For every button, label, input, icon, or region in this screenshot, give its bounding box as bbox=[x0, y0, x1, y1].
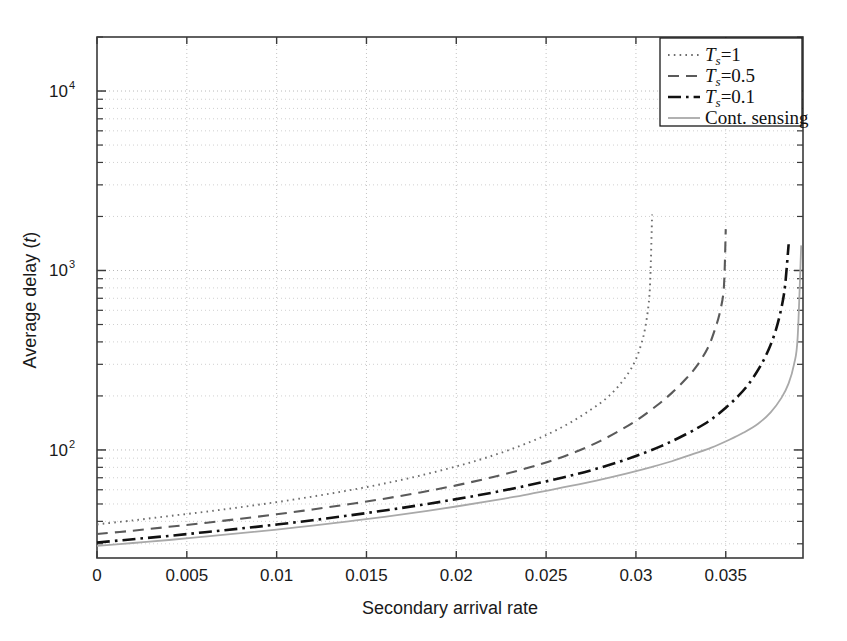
svg-text:3: 3 bbox=[69, 258, 75, 270]
chart-canvas: 00.0050.010.0150.020.0250.030.035 102103… bbox=[0, 0, 847, 641]
svg-text:10: 10 bbox=[49, 82, 68, 101]
x-tick-label: 0.025 bbox=[525, 566, 568, 585]
y-axis-title-text: Average delay (t) bbox=[20, 232, 40, 369]
x-axis-title: Secondary arrival rate bbox=[362, 598, 538, 618]
y-tick-labels: 102103104 bbox=[49, 79, 75, 460]
svg-text:4: 4 bbox=[69, 79, 75, 91]
figure-container: 00.0050.010.0150.020.0250.030.035 102103… bbox=[0, 0, 847, 641]
svg-text:10: 10 bbox=[49, 261, 68, 280]
y-tick-label: 102 bbox=[49, 438, 75, 460]
legend-box: Ts=1Ts=0.5Ts=0.1Cont. sensing bbox=[660, 38, 809, 128]
x-tick-label: 0.005 bbox=[166, 566, 209, 585]
x-tick-label: 0.035 bbox=[704, 566, 747, 585]
data-lines-layer bbox=[97, 215, 801, 546]
svg-text:10: 10 bbox=[49, 441, 68, 460]
y-tick-label: 104 bbox=[49, 79, 75, 101]
svg-text:2: 2 bbox=[69, 438, 75, 450]
legend-label-4: Cont. sensing bbox=[705, 107, 809, 128]
x-tick-label: 0.02 bbox=[440, 566, 473, 585]
x-tick-labels: 00.0050.010.0150.020.0250.030.035 bbox=[92, 566, 747, 585]
data-curve-ts-0-1 bbox=[97, 244, 789, 542]
y-tick-label: 103 bbox=[49, 258, 75, 280]
x-tick-label: 0.03 bbox=[619, 566, 652, 585]
y-axis-title: Average delay (t) bbox=[20, 232, 40, 369]
x-axis-title-text: Secondary arrival rate bbox=[362, 598, 538, 618]
x-tick-label: 0.01 bbox=[260, 566, 293, 585]
x-tick-label: 0 bbox=[92, 566, 101, 585]
data-curve-ts-0-5 bbox=[97, 229, 726, 534]
data-curve-ts-1 bbox=[97, 215, 652, 525]
x-tick-label: 0.015 bbox=[345, 566, 388, 585]
